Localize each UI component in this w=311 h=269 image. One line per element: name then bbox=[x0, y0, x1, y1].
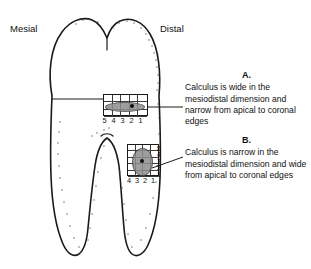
grid-cell bbox=[138, 95, 147, 102]
grid-a-cells bbox=[103, 94, 148, 116]
grid-b-numbers: 4 3 2 1 bbox=[125, 177, 163, 185]
callout-b-letter: B. bbox=[185, 135, 308, 146]
callout-b-text: Calculus is narrow in the mesiodistal di… bbox=[185, 147, 308, 181]
label-distal: Distal bbox=[160, 23, 184, 34]
grid-b-side-numbers: 5 4 3 2 1 bbox=[157, 145, 161, 177]
grid-number: 3 bbox=[133, 177, 141, 185]
probe-point-a bbox=[130, 104, 134, 108]
probe-point-b bbox=[140, 159, 144, 163]
grid-number: 2 bbox=[127, 117, 136, 125]
grid-number: 5 bbox=[100, 117, 109, 125]
grid-number: 1 bbox=[149, 177, 157, 185]
callout-b: B. Calculus is narrow in the mesiodistal… bbox=[185, 135, 308, 181]
grid-a-numbers: 5 4 3 2 1 bbox=[100, 117, 148, 125]
grid-number: 4 bbox=[125, 177, 133, 185]
grid-b-cells bbox=[127, 144, 159, 176]
grid-a bbox=[103, 94, 148, 116]
callout-a-text: Calculus is wide in the mesiodistal dime… bbox=[185, 82, 308, 127]
grid-number: 1 bbox=[136, 117, 145, 125]
grid-number: 1 bbox=[157, 171, 161, 177]
callout-a: A. Calculus is wide in the mesiodistal d… bbox=[185, 70, 308, 127]
grid-cell bbox=[104, 95, 113, 102]
label-mesial: Mesial bbox=[10, 23, 37, 34]
grid-number: 2 bbox=[141, 177, 149, 185]
calculus-deposit-a bbox=[105, 102, 145, 112]
grid-cell bbox=[130, 95, 139, 102]
root-furcation bbox=[101, 134, 113, 136]
grid-number: 3 bbox=[118, 117, 127, 125]
tooth-stipple-shading bbox=[57, 18, 159, 247]
grid-number: 4 bbox=[109, 117, 118, 125]
tooth-outline bbox=[50, 19, 160, 256]
callout-a-letter: A. bbox=[185, 70, 308, 81]
tooth-calculus-figure: Mesial Distal bbox=[0, 0, 311, 269]
grid-b bbox=[127, 144, 159, 176]
